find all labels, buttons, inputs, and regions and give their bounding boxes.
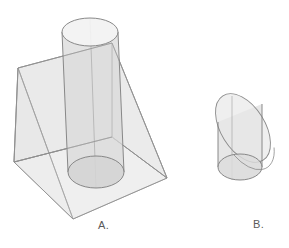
- geometry-figure-canvas: [0, 0, 289, 248]
- figure-label-a: A.: [98, 219, 109, 231]
- cylinder-a-top-ellipse: [62, 18, 118, 46]
- cylinder-a-bottom-ellipse: [68, 156, 124, 188]
- shape-a-group: [14, 18, 167, 219]
- cylinder-b-bottom-ellipse: [218, 154, 262, 180]
- shape-b-group: [204, 84, 282, 180]
- figure-label-b: B.: [253, 218, 264, 230]
